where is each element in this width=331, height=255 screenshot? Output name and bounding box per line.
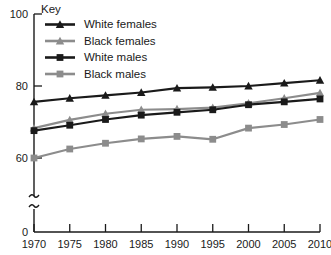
legend-swatch-marker	[57, 71, 64, 78]
data-point-2005	[281, 98, 288, 105]
x-tick-label-2010: 2010	[308, 238, 331, 250]
x-tick-label-1980: 1980	[93, 238, 117, 250]
data-point-2000	[245, 125, 252, 132]
data-point-2010	[317, 96, 324, 103]
data-point-1985	[138, 112, 145, 119]
data-point-1990	[174, 133, 181, 140]
data-series-group	[30, 76, 324, 161]
data-point-1995	[209, 106, 216, 113]
data-point-2010	[317, 116, 324, 123]
y-axis-tick-labels: 10080600	[10, 8, 28, 238]
legend-item-black-males: Black males	[45, 68, 146, 80]
legend-item-white-females: White females	[45, 18, 157, 30]
x-tick-label-1990: 1990	[165, 238, 189, 250]
data-point-1990	[174, 109, 181, 116]
x-tick-label-2005: 2005	[272, 238, 296, 250]
x-tick-label-1985: 1985	[129, 238, 153, 250]
data-point-1995	[209, 136, 216, 143]
series-black-males	[31, 116, 324, 161]
legend-swatch-marker	[57, 54, 64, 61]
y-tick-label-0: 0	[22, 226, 28, 238]
data-point-1975	[66, 122, 73, 129]
legend-label: White females	[84, 18, 157, 30]
x-tick-label-1995: 1995	[201, 238, 225, 250]
data-point-1975	[66, 146, 73, 153]
data-point-1970	[31, 127, 38, 134]
line-chart: 10080600 1970197519801985199019952000200…	[0, 0, 331, 255]
series-white-females	[30, 76, 324, 105]
x-axis-tick-labels: 197019751980198519901995200020052010	[22, 238, 331, 250]
data-point-2000	[245, 101, 252, 108]
y-tick-label-80: 80	[16, 80, 28, 92]
legend-item-black-females: Black females	[45, 35, 156, 47]
legend-title: Key	[41, 3, 61, 15]
x-tick-label-1970: 1970	[22, 238, 46, 250]
legend-label: White males	[84, 51, 148, 63]
data-point-1980	[102, 116, 109, 123]
x-tick-label-1975: 1975	[58, 238, 82, 250]
y-tick-label-100: 100	[10, 8, 28, 20]
data-point-1985	[138, 136, 145, 143]
legend-label: Black females	[84, 35, 156, 47]
y-axis-break-lower-icon	[29, 205, 39, 208]
legend-item-white-males: White males	[45, 51, 148, 63]
x-tick-label-2000: 2000	[236, 238, 260, 250]
data-point-1980	[102, 140, 109, 147]
chart-canvas: 10080600 1970197519801985199019952000200…	[0, 0, 331, 255]
legend: KeyWhite femalesBlack femalesWhite males…	[41, 3, 157, 80]
y-tick-label-60: 60	[16, 152, 28, 164]
y-axis-break-upper-icon	[29, 195, 39, 198]
legend-label: Black males	[84, 68, 146, 80]
data-point-2005	[281, 121, 288, 128]
data-point-1970	[31, 155, 38, 162]
series-white-males	[31, 96, 324, 134]
